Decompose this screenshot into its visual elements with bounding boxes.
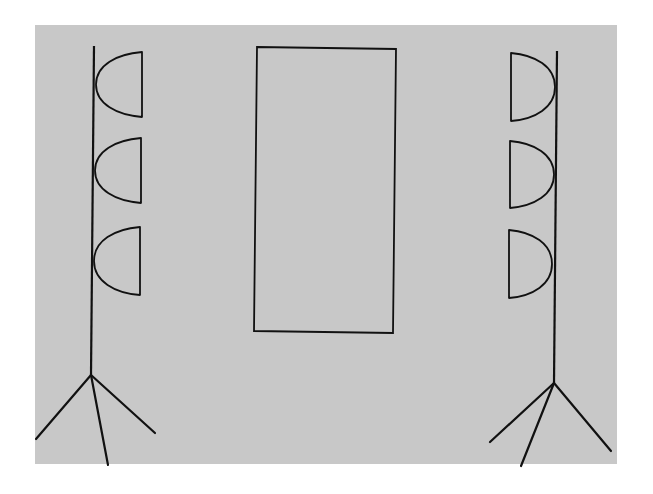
- gray-panel: [35, 25, 617, 464]
- lighting-diagram: [0, 0, 653, 494]
